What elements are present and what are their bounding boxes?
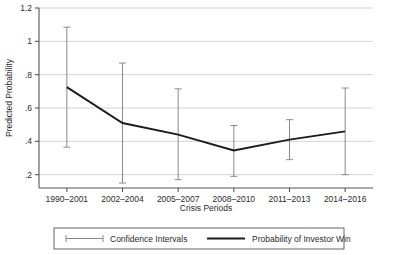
x-tick-label: 1990–2001 [46, 194, 89, 204]
legend-label-probability-of-investor-win: Probability of Investor Win [252, 234, 351, 244]
y-tick-label: 1.2 [20, 3, 32, 13]
y-tick-label: .4 [25, 136, 32, 146]
chart-background [0, 0, 394, 255]
y-tick-label: .6 [25, 103, 32, 113]
chart-figure: 1.21.8.6.4.2 1990–20012002–20042005–2007… [0, 0, 394, 255]
y-tick-label: .2 [25, 170, 32, 180]
x-tick-label: 2014–2016 [324, 194, 367, 204]
y-axis-title: Predicted Probability [4, 58, 14, 137]
x-axis-title: Crisis Periods [180, 203, 232, 213]
y-tick-label: 1 [27, 36, 32, 46]
x-tick-label: 2011–2013 [269, 194, 311, 204]
x-tick-label: 2002–2004 [101, 194, 144, 204]
predicted-probability-line-chart: 1.21.8.6.4.2 1990–20012002–20042005–2007… [0, 0, 394, 255]
legend-label-confidence-intervals: Confidence Intervals [110, 234, 188, 244]
y-tick-label: .8 [25, 70, 32, 80]
